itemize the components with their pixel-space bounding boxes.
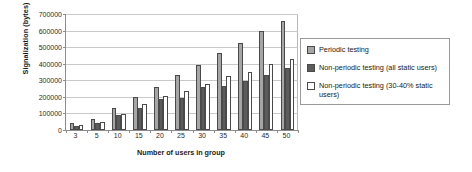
bar-3-series-2 xyxy=(79,125,84,130)
x-tick-label: 45 xyxy=(261,132,269,139)
x-tick-label: 10 xyxy=(114,132,122,139)
bar-group xyxy=(235,14,256,130)
x-tick-label: 15 xyxy=(135,132,143,139)
chart-legend: Periodic testingNon-periodic testing (al… xyxy=(300,38,450,105)
bar-15-series-2 xyxy=(142,104,147,130)
bar-group xyxy=(108,14,129,130)
y-tick-label: 400000 xyxy=(39,60,62,67)
y-tick-label: 100000 xyxy=(39,110,62,117)
plot-area xyxy=(65,14,298,131)
bar-group xyxy=(171,14,192,130)
x-tick-label: 35 xyxy=(219,132,227,139)
legend-item[interactable]: Non-periodic testing (all static users) xyxy=(307,63,444,72)
bar-series-container xyxy=(66,14,298,130)
x-axis-title: Number of users in group xyxy=(65,148,297,157)
x-tick-mark xyxy=(298,130,299,133)
bar-45-series-2 xyxy=(269,64,274,130)
y-axis-tick-labels: 7000006000005000004000003000002000001000… xyxy=(0,0,62,172)
legend-item[interactable]: Non-periodic testing (30-40% static user… xyxy=(307,81,444,99)
legend-swatch-icon xyxy=(307,64,315,72)
bar-50-series-2 xyxy=(290,59,295,130)
bar-group xyxy=(277,14,298,130)
bar-10-series-2 xyxy=(121,114,126,130)
y-tick-label: 300000 xyxy=(39,77,62,84)
bar-40-series-2 xyxy=(248,72,253,130)
bar-20-series-2 xyxy=(163,96,168,130)
y-tick-label: 600000 xyxy=(39,27,62,34)
x-tick-label: 20 xyxy=(156,132,164,139)
bar-chart-figure: Signalization (bytes) 700000600000500000… xyxy=(0,0,472,172)
bar-group xyxy=(129,14,150,130)
legend-item[interactable]: Periodic testing xyxy=(307,45,444,54)
y-tick-label: 0 xyxy=(58,127,62,134)
x-axis-tick-labels: 35101520253035404550 xyxy=(65,132,297,146)
bar-group xyxy=(214,14,235,130)
legend-swatch-icon xyxy=(307,46,315,54)
legend-swatch-icon xyxy=(307,82,315,90)
legend-label: Periodic testing xyxy=(319,45,369,54)
legend-label: Non-periodic testing (all static users) xyxy=(319,63,437,72)
bar-25-series-2 xyxy=(184,91,189,130)
bar-group xyxy=(193,14,214,130)
x-tick-label: 50 xyxy=(283,132,291,139)
bar-group xyxy=(66,14,87,130)
bar-group xyxy=(256,14,277,130)
bar-5-series-2 xyxy=(100,122,105,130)
bar-35-series-2 xyxy=(226,76,231,130)
legend-label: Non-periodic testing (30-40% static user… xyxy=(319,81,444,99)
x-tick-label: 40 xyxy=(240,132,248,139)
y-tick-label: 200000 xyxy=(39,93,62,100)
y-tick-label: 500000 xyxy=(39,44,62,51)
x-tick-label: 25 xyxy=(177,132,185,139)
x-tick-label: 5 xyxy=(95,132,99,139)
bar-30-series-2 xyxy=(205,84,210,130)
bar-group xyxy=(150,14,171,130)
y-tick-label: 700000 xyxy=(39,11,62,18)
x-tick-label: 30 xyxy=(198,132,206,139)
bar-group xyxy=(87,14,108,130)
x-tick-label: 3 xyxy=(74,132,78,139)
